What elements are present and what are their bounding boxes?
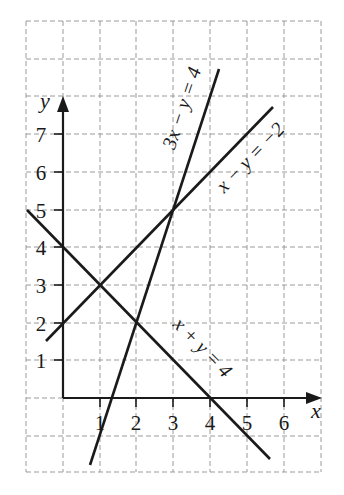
x-axis-label: x <box>310 398 321 423</box>
y-tick-label: 1 <box>36 349 47 373</box>
x-tick-label: 2 <box>131 411 142 435</box>
y-tick-label: 3 <box>36 274 47 298</box>
y-tick-label: 2 <box>36 312 47 336</box>
y-axis-label: y <box>38 88 50 113</box>
y-tick-label: 4 <box>36 236 47 260</box>
y-tick-label: 7 <box>36 123 47 147</box>
x-tick-label: 3 <box>168 411 179 435</box>
x-tick-labels: 1 2 3 4 5 6 <box>95 411 290 435</box>
y-tick-label: 6 <box>36 161 47 185</box>
x-tick-label: 6 <box>279 411 290 435</box>
y-tick-labels: 1 2 3 4 5 6 7 <box>36 123 47 373</box>
x-tick-label: 4 <box>205 411 216 435</box>
equation-label-3x-minus-y: 3x − y = 4 <box>157 64 206 153</box>
coordinate-plane: 1 2 3 4 5 6 1 2 3 4 5 6 7 y x 3x − y = 4… <box>0 0 344 495</box>
y-axis-arrow-icon <box>57 96 69 112</box>
line-3x-minus-y-eq-4 <box>90 69 219 465</box>
